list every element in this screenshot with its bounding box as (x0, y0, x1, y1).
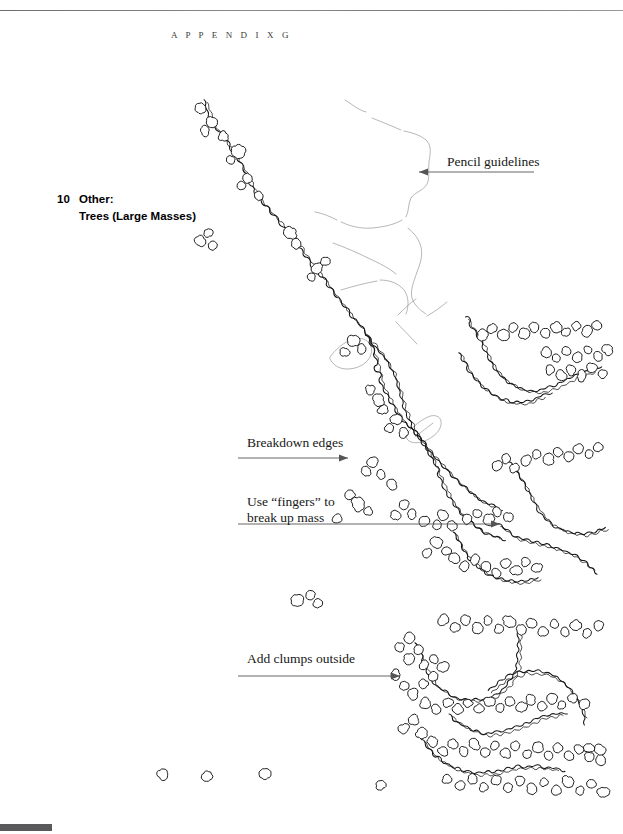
tree-clump (558, 701, 566, 709)
tree-clump (448, 739, 458, 749)
tree-clump (562, 776, 574, 788)
tree-clump (526, 618, 537, 628)
tree-clump (585, 752, 595, 761)
tree-clump (452, 703, 463, 714)
tree-clump (562, 347, 571, 356)
tree-clump (561, 328, 570, 336)
tree-clump (494, 624, 503, 633)
tree-clump (550, 619, 558, 628)
tree-clump (504, 513, 514, 522)
tree-clump (259, 769, 271, 780)
tree-clump (492, 461, 502, 471)
annotation-add-clumps-outside: Add clumps outside (247, 651, 355, 667)
tree-clump (487, 324, 497, 334)
tree-clump (415, 727, 427, 739)
tree-clump (442, 774, 452, 783)
tree-clump (543, 453, 554, 465)
tree-clump (533, 742, 544, 753)
page-edge-marker (0, 824, 52, 831)
tree-mass-lower-right-arc-a-inner (418, 630, 522, 703)
page-canvas: A P P E N D I X G 10Other: Trees (Large … (0, 0, 623, 834)
tree-clump (540, 778, 549, 787)
tree-clump (437, 510, 448, 521)
tree-clump (459, 561, 469, 572)
tree-clump (572, 321, 582, 331)
tree-clump (516, 625, 526, 636)
tree-clump (292, 238, 301, 249)
tree-clump (347, 335, 360, 346)
tree-clump (320, 257, 330, 265)
annotation-pencil-guidelines: Pencil guidelines (447, 154, 540, 170)
annotation-use-fingers-line1: Use “fingers” to (247, 494, 335, 510)
tree-clump (566, 365, 576, 376)
tree-mass-right-mid-cluster-b (498, 524, 597, 575)
tree-clump (597, 787, 610, 797)
tree-clump (419, 516, 430, 526)
tree-clump (546, 365, 554, 375)
tree-clump (596, 754, 606, 765)
tree-mass-right-upper-second-inner (462, 355, 546, 405)
tree-clump (551, 785, 561, 795)
tree-clump (351, 497, 364, 512)
tree-clump (443, 698, 454, 707)
tree-clump (474, 704, 485, 713)
tree-clump (367, 457, 378, 468)
tree-clump (468, 774, 477, 784)
tree-clump (531, 563, 542, 572)
tree-clump (598, 370, 607, 379)
tree-clump (496, 704, 504, 713)
tree-clump (404, 654, 415, 665)
tree-clump (437, 662, 449, 673)
tree-mass-right-mid-cluster-a (508, 462, 605, 534)
tree-clump (491, 775, 501, 785)
tree-mass-lower-right-arc-b (449, 713, 567, 735)
annotation-use-fingers-arrow-head (491, 521, 500, 528)
tree-clump (547, 693, 558, 704)
tree-clump (594, 744, 606, 755)
tree-clump (484, 616, 492, 626)
tree-clump (408, 688, 418, 700)
tree-clump (460, 746, 468, 756)
tree-clump (204, 229, 213, 238)
tree-clump (568, 694, 578, 703)
tree-clump (582, 325, 593, 337)
tree-clump (556, 370, 567, 381)
tree-clump (462, 514, 472, 525)
pencil-guidelines-layer (315, 100, 447, 443)
tree-clump (422, 548, 431, 558)
tree-clump (502, 454, 511, 464)
tree-clump (208, 241, 217, 250)
tree-clump (516, 702, 528, 712)
tree-mass-lower-right-arc-a (415, 627, 519, 700)
pencil-guideline-1 (372, 118, 401, 130)
tree-mass-right-mid-cluster-a-inner (511, 465, 608, 537)
annotation-breakdown-edges-arrow-head (339, 455, 348, 462)
tree-clump (283, 226, 296, 239)
tree-clump (237, 181, 246, 190)
tree-clump (527, 783, 537, 795)
tree-mass-right-mid-cluster-b-inner (501, 526, 595, 570)
pencil-guideline-11 (396, 322, 417, 344)
tree-clump (414, 645, 423, 655)
tree-clump (399, 681, 409, 690)
tree-clump (561, 627, 569, 637)
tree-clump (391, 510, 401, 520)
annotation-pencil-guidelines-arrow-head (419, 169, 428, 176)
tree-clump (447, 521, 457, 531)
tree-clump (358, 344, 366, 355)
tree-clump (550, 321, 562, 332)
tree-clump (473, 510, 482, 518)
tree-clump (602, 345, 613, 356)
tree-clump (492, 568, 501, 578)
tree-clump (594, 621, 604, 631)
tree-clump (376, 780, 386, 790)
pencil-guideline-8 (408, 228, 426, 314)
tree-clump (420, 697, 431, 709)
tree-clump (573, 444, 584, 454)
tree-clump (291, 594, 304, 606)
tree-clump (583, 744, 594, 752)
tree-clump (500, 748, 510, 758)
tree-clump (544, 751, 553, 760)
tree-clump (226, 156, 235, 165)
tree-mass-illustration (0, 0, 623, 834)
